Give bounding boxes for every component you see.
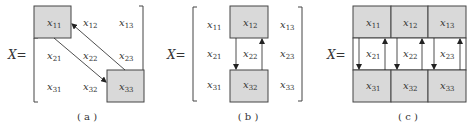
right-bracket bbox=[298, 7, 302, 101]
arrow-x33-to-x11 bbox=[72, 24, 125, 70]
matrix-label: X= bbox=[166, 48, 186, 62]
caption-a: ( a ) bbox=[77, 111, 97, 122]
left-bracket bbox=[193, 7, 197, 101]
matrix-label: X= bbox=[326, 48, 346, 62]
caption-c: ( c ) bbox=[398, 111, 418, 122]
cell-x21: x21 bbox=[207, 48, 222, 61]
matrix-label: X= bbox=[7, 48, 27, 62]
cell-x13: x13 bbox=[119, 17, 134, 30]
cell-x23: x23 bbox=[280, 48, 295, 61]
caption-b: ( b ) bbox=[238, 111, 259, 122]
panel-c: X= x11 x12 x13 x21 x22 x23 x31 x32 x33 (… bbox=[326, 6, 466, 122]
panel-a: X= x11 x12 x13 x21 x22 x23 x31 x32 x33 (… bbox=[7, 6, 144, 122]
matrix-diagram: X= x11 x12 x13 x21 x22 x23 x31 x32 x33 (… bbox=[0, 0, 473, 129]
cell-x11: x11 bbox=[207, 19, 222, 32]
cell-x31: x31 bbox=[207, 79, 222, 92]
cell-x22: x22 bbox=[83, 50, 98, 63]
arrow-x11-to-x33 bbox=[54, 38, 106, 82]
cell-x31: x31 bbox=[47, 81, 62, 94]
cell-x12: x12 bbox=[83, 17, 98, 30]
cell-x22: x22 bbox=[243, 48, 258, 61]
right-bracket bbox=[139, 6, 143, 70]
cell-x23: x23 bbox=[119, 50, 134, 63]
cell-x32: x32 bbox=[83, 81, 98, 94]
cell-x13: x13 bbox=[280, 19, 295, 32]
left-bracket bbox=[34, 38, 38, 102]
cell-x33: x33 bbox=[280, 79, 295, 92]
cell-x21: x21 bbox=[47, 50, 62, 63]
panel-b: X= x11 x12 x13 x21 x22 x23 x31 x32 x33 (… bbox=[166, 6, 302, 122]
